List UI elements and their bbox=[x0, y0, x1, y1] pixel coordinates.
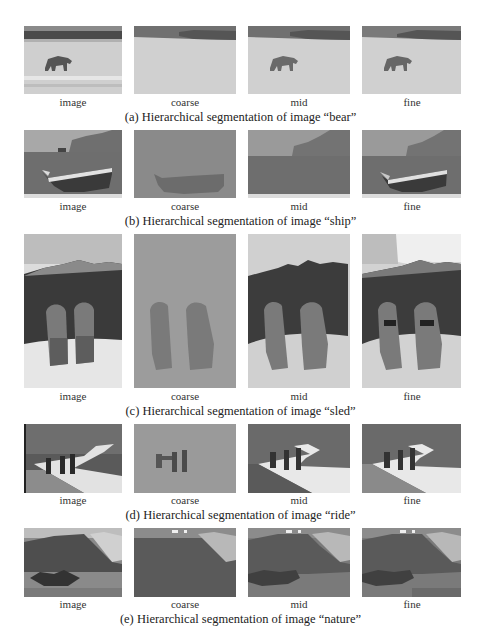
ship-coarse-segmentation bbox=[134, 130, 236, 198]
nature-label-fine: fine bbox=[360, 598, 464, 610]
ship-mid-panel bbox=[248, 130, 350, 198]
sled-image-panel bbox=[24, 234, 122, 388]
sled-mid-panel bbox=[248, 234, 350, 388]
ride-mid-panel bbox=[248, 424, 350, 493]
sled-fine-segmentation bbox=[362, 234, 461, 388]
ride-fine-panel bbox=[362, 424, 461, 493]
bear-label-image: image bbox=[21, 96, 125, 108]
nature-label-mid: mid bbox=[247, 598, 351, 610]
bear-fine-panel bbox=[362, 26, 461, 94]
nature-label-image: image bbox=[21, 598, 125, 610]
bear-caption: (a) Hierarchical segmentation of image “… bbox=[0, 110, 481, 125]
ride-label-image: image bbox=[21, 494, 125, 506]
bear-label-coarse: coarse bbox=[133, 96, 237, 108]
sled-caption: (c) Hierarchical segmentation of image “… bbox=[0, 404, 481, 419]
bear-mid-panel bbox=[248, 26, 350, 94]
nature-photo bbox=[24, 528, 122, 597]
bear-label-fine: fine bbox=[360, 96, 464, 108]
ship-fine-segmentation bbox=[362, 130, 461, 198]
ship-mid-segmentation bbox=[248, 130, 350, 198]
ride-caption: (d) Hierarchical segmentation of image “… bbox=[0, 508, 481, 523]
ship-label-coarse: coarse bbox=[133, 200, 237, 212]
sled-coarse-panel bbox=[134, 234, 236, 388]
sled-mid-segmentation bbox=[248, 234, 350, 388]
ride-coarse-panel bbox=[134, 424, 236, 493]
sled-photo bbox=[24, 234, 122, 388]
ship-label-fine: fine bbox=[360, 200, 464, 212]
sled-coarse-segmentation bbox=[134, 234, 236, 388]
nature-fine-segmentation bbox=[362, 528, 461, 597]
ship-coarse-panel bbox=[134, 130, 236, 198]
ride-image-panel bbox=[24, 424, 122, 493]
nature-fine-panel bbox=[362, 528, 461, 597]
nature-coarse-segmentation bbox=[134, 528, 236, 597]
ride-mid-segmentation bbox=[248, 424, 350, 493]
bear-fine-segmentation bbox=[362, 26, 461, 94]
ship-label-mid: mid bbox=[247, 200, 351, 212]
bear-photo bbox=[24, 26, 122, 94]
ride-coarse-segmentation bbox=[134, 424, 236, 493]
ship-fine-panel bbox=[362, 130, 461, 198]
nature-mid-panel bbox=[248, 528, 350, 597]
ship-label-image: image bbox=[21, 200, 125, 212]
ship-caption: (b) Hierarchical segmentation of image “… bbox=[0, 214, 481, 229]
sled-label-image: image bbox=[21, 390, 125, 402]
ship-photo bbox=[24, 130, 122, 198]
bear-coarse-segmentation bbox=[134, 26, 236, 94]
nature-image-panel bbox=[24, 528, 122, 597]
nature-mid-segmentation bbox=[248, 528, 350, 597]
ride-label-fine: fine bbox=[360, 494, 464, 506]
nature-coarse-panel bbox=[134, 528, 236, 597]
ride-label-mid: mid bbox=[247, 494, 351, 506]
sled-fine-panel bbox=[362, 234, 461, 388]
nature-label-coarse: coarse bbox=[133, 598, 237, 610]
nature-caption: (e) Hierarchical segmentation of image “… bbox=[0, 612, 481, 627]
bear-label-mid: mid bbox=[247, 96, 351, 108]
bear-coarse-panel bbox=[134, 26, 236, 94]
bear-mid-segmentation bbox=[248, 26, 350, 94]
sled-label-mid: mid bbox=[247, 390, 351, 402]
ride-photo bbox=[24, 424, 122, 493]
ride-fine-segmentation bbox=[362, 424, 461, 493]
ship-image-panel bbox=[24, 130, 122, 198]
ride-label-coarse: coarse bbox=[133, 494, 237, 506]
sled-label-coarse: coarse bbox=[133, 390, 237, 402]
sled-label-fine: fine bbox=[360, 390, 464, 402]
bear-image-panel bbox=[24, 26, 122, 94]
